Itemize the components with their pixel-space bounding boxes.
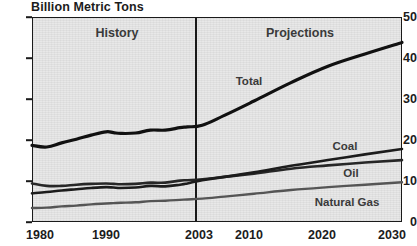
y-tick-mark-30	[26, 98, 32, 100]
x-tick-label-2030: 2030	[378, 228, 406, 242]
y-tick-label-20: 20	[391, 133, 417, 147]
annotation-history: History	[95, 26, 138, 40]
y-tick-label-40: 40	[391, 51, 417, 65]
x-tick-label-2020: 2020	[308, 228, 336, 242]
y-tick-label-30: 30	[391, 92, 417, 106]
y-tick-label-50: 50	[391, 10, 417, 24]
y-tick-label-0: 0	[391, 215, 417, 229]
x-tick-label-2010: 2010	[235, 228, 263, 242]
y-tick-label-10: 10	[391, 174, 417, 188]
x-tick-label-2003: 2003	[185, 228, 213, 242]
annotation-total: Total	[236, 75, 263, 87]
history-projections-divider	[195, 17, 197, 222]
y-tick-mark-0	[26, 221, 32, 223]
annotation-natural-gas: Natural Gas	[315, 196, 380, 208]
chart-title: Billion Metric Tons	[31, 0, 144, 14]
emissions-line-chart: Billion Metric Tons 50 40 30 20 10 0 198…	[0, 0, 417, 246]
x-tick-label-1990: 1990	[92, 228, 120, 242]
y-tick-mark-10	[26, 180, 32, 182]
plot-area	[32, 17, 402, 222]
plot-background-texture	[33, 18, 401, 221]
x-tick-label-1980: 1980	[26, 228, 54, 242]
annotation-projections: Projections	[266, 26, 334, 40]
y-tick-mark-20	[26, 139, 32, 141]
y-tick-mark-40	[26, 57, 32, 59]
annotation-oil: Oil	[343, 167, 358, 179]
annotation-coal: Coal	[333, 140, 358, 152]
y-tick-mark-50	[26, 16, 32, 18]
